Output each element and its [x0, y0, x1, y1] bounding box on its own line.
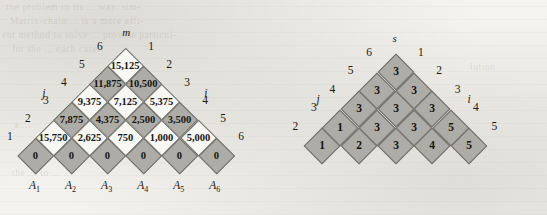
cell-value: 0: [33, 151, 38, 162]
s-index-i-1: 1: [418, 47, 424, 59]
s-index-j-5: 5: [348, 65, 354, 77]
cell-value: 0: [142, 151, 147, 162]
s-index-j-3: 3: [311, 102, 317, 114]
cell-value: 0: [214, 151, 219, 162]
cell-value: 3: [393, 67, 399, 79]
s-index-j-2: 2: [293, 121, 299, 133]
s-index-i-4: 4: [473, 102, 479, 114]
cell-value: 3: [374, 85, 380, 97]
cell-value: 10,500: [130, 79, 159, 90]
matrix-label-A6: A6: [209, 180, 220, 194]
cell-value: 4,375: [96, 115, 120, 126]
matrix-subscript: 1: [36, 185, 40, 194]
cell-value: 2,625: [78, 133, 102, 144]
m-index-i-2: 2: [166, 59, 172, 71]
matrix-label-A1: A1: [29, 180, 40, 194]
s-table-axis-label-i: i: [468, 94, 471, 106]
cell-value: 1: [338, 122, 344, 134]
s-index-i-3: 3: [455, 84, 461, 96]
s-table-title: s: [393, 33, 397, 44]
cell-value: 5: [448, 122, 454, 134]
m-index-j-3: 3: [43, 95, 49, 107]
cell-value: 1: [319, 140, 325, 152]
matrix-subscript: 5: [180, 185, 184, 194]
cell-value: 11,875: [94, 79, 122, 90]
cell-value: 3: [374, 122, 380, 134]
cell-value: 3: [393, 140, 399, 152]
cell-value: 7,125: [114, 97, 138, 108]
m-index-j-1: 1: [7, 131, 13, 143]
cell-value: 1,000: [150, 133, 174, 144]
m-index-i-3: 3: [184, 77, 190, 89]
bleedthrough-line: ent method to solve ... provide particul…: [2, 30, 177, 40]
matrix-subscript: 6: [216, 185, 220, 194]
m-index-i-5: 5: [220, 113, 226, 125]
m-index-i-4: 4: [202, 95, 208, 107]
m-index-j-6: 6: [97, 41, 103, 53]
s-index-i-5: 5: [491, 121, 497, 133]
matrix-label-A5: A5: [173, 180, 184, 194]
cell-value: 5,000: [186, 133, 210, 144]
s-table-axis-label-j: j: [317, 94, 320, 106]
cell-value: 5,375: [150, 97, 174, 108]
cell-value: 7,875: [60, 115, 84, 126]
m-index-i-6: 6: [238, 131, 244, 143]
matrix-subscript: 2: [72, 185, 76, 194]
cell-value: 750: [118, 133, 134, 144]
bleedthrough-line: Matrix-chain ... is a more effi-: [4, 16, 144, 26]
matrix-label-A3: A3: [101, 180, 112, 194]
cell-value: 3,500: [168, 115, 192, 126]
cell-value: 0: [69, 151, 74, 162]
matrix-label-A4: A4: [137, 180, 148, 194]
cell-value: 4: [429, 140, 435, 152]
m-index-j-2: 2: [25, 113, 31, 125]
cell-value: 15,125: [112, 61, 141, 72]
cell-value: 3: [411, 122, 417, 134]
cell-value: 3: [429, 103, 435, 115]
s-index-j-4: 4: [329, 84, 335, 96]
cell-value: 0: [178, 151, 183, 162]
cell-value: 3: [393, 103, 399, 115]
s-index-i-2: 2: [436, 65, 442, 77]
cell-value: 3: [356, 103, 362, 115]
cell-value: 3: [411, 85, 417, 97]
bleedthrough-line: for the ... each case.: [6, 44, 101, 54]
s-index-j-6: 6: [366, 47, 372, 59]
cell-value: 0: [105, 151, 110, 162]
cell-value: 5: [466, 140, 472, 152]
m-index-j-4: 4: [61, 77, 67, 89]
bleedthrough-line: the problem in its ... way. sim-: [6, 2, 141, 12]
matrix-letter: A: [29, 179, 36, 191]
m-table-title: m: [122, 27, 130, 38]
cell-value: 2: [356, 140, 362, 152]
bleedthrough-line: lution: [470, 62, 496, 72]
matrix-label-A2: A2: [65, 180, 76, 194]
m-index-j-5: 5: [79, 59, 85, 71]
matrix-subscript: 3: [108, 185, 112, 194]
cell-value: 2,500: [132, 115, 156, 126]
m-index-i-1: 1: [148, 41, 154, 53]
cell-value: 9,375: [78, 97, 102, 108]
cell-value: 15,750: [40, 133, 69, 144]
matrix-subscript: 4: [144, 185, 148, 194]
